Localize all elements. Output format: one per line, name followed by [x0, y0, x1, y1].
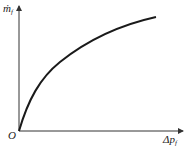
x-axis-label: Δpf — [163, 134, 177, 147]
origin-label: O — [8, 130, 16, 141]
curve — [19, 17, 156, 131]
y-axis-label: ṁf — [3, 3, 13, 16]
diagram-canvas — [0, 0, 189, 155]
